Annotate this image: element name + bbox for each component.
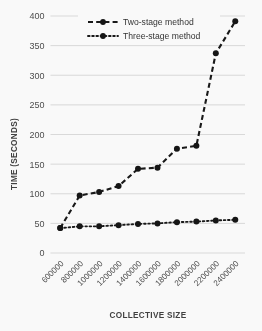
legend-label-1: Two-stage method xyxy=(123,17,194,27)
line-chart: 050100150200250300350400 TIME (SECONDS) … xyxy=(0,0,262,331)
data-point-marker xyxy=(193,219,199,225)
y-tick-label: 0 xyxy=(39,248,44,258)
data-point-marker xyxy=(154,165,160,171)
legend-marker-1 xyxy=(100,19,106,25)
y-tick-label: 250 xyxy=(29,100,44,110)
y-tick-label: 200 xyxy=(29,130,44,140)
data-point-marker xyxy=(213,50,219,56)
legend-marker-2 xyxy=(100,33,106,39)
y-tick-label: 400 xyxy=(29,11,44,21)
chart-container: 050100150200250300350400 TIME (SECONDS) … xyxy=(0,0,262,331)
data-point-marker xyxy=(135,221,141,227)
data-point-marker xyxy=(232,18,238,24)
data-point-marker xyxy=(213,217,219,223)
data-point-marker xyxy=(77,223,83,229)
data-point-marker xyxy=(193,143,199,149)
y-tick-label: 50 xyxy=(34,219,44,229)
data-point-marker xyxy=(232,217,238,223)
y-tick-label: 100 xyxy=(29,189,44,199)
data-point-marker xyxy=(96,223,102,229)
data-point-marker xyxy=(154,220,160,226)
data-point-marker xyxy=(116,183,122,189)
x-axis-title: COLLECTIVE SIZE xyxy=(110,311,187,320)
data-point-marker xyxy=(77,193,83,199)
y-tick-label: 300 xyxy=(29,71,44,81)
data-point-marker xyxy=(174,219,180,225)
chart-legend: Two-stage methodThree-stage method xyxy=(78,11,220,43)
data-point-marker xyxy=(96,189,102,195)
data-point-marker xyxy=(57,225,63,231)
data-point-marker xyxy=(174,146,180,152)
legend-label-2: Three-stage method xyxy=(123,31,201,41)
y-axis-title: TIME (SECONDS) xyxy=(10,118,19,190)
data-point-marker xyxy=(116,222,122,228)
y-tick-label: 350 xyxy=(29,41,44,51)
data-point-marker xyxy=(135,166,141,172)
y-tick-label: 150 xyxy=(29,160,44,170)
